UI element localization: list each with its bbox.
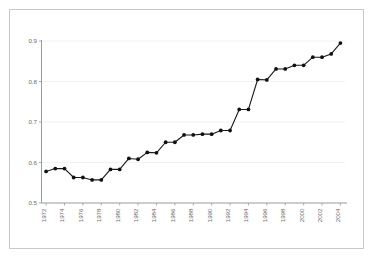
x-tick-label-1980: 1980 bbox=[114, 208, 121, 222]
data-point-1982 bbox=[136, 157, 140, 161]
x-tick-label-1984: 1984 bbox=[150, 208, 157, 222]
y-tick-label-0.5: 0.5 bbox=[28, 199, 37, 206]
y-tick-label-0.8: 0.8 bbox=[28, 78, 37, 85]
x-tick-label-2000: 2000 bbox=[298, 208, 305, 222]
data-point-1987 bbox=[182, 133, 186, 137]
data-point-1984 bbox=[155, 151, 159, 155]
data-point-1986 bbox=[173, 140, 177, 144]
y-tick-label-0.6: 0.6 bbox=[28, 159, 37, 166]
x-tick-label-1998: 1998 bbox=[279, 208, 286, 222]
x-tick-label-1996: 1996 bbox=[261, 208, 268, 222]
data-point-1977 bbox=[90, 178, 94, 182]
x-tick-label-1972: 1972 bbox=[40, 208, 47, 222]
data-point-1996 bbox=[265, 78, 269, 82]
data-point-1993 bbox=[237, 108, 241, 112]
data-point-1980 bbox=[118, 167, 122, 171]
data-point-1991 bbox=[219, 129, 223, 133]
data-point-1978 bbox=[99, 178, 103, 182]
data-point-2000 bbox=[302, 63, 306, 67]
x-tick-label-1982: 1982 bbox=[132, 208, 139, 222]
data-point-1973 bbox=[53, 167, 57, 171]
x-axis-tick-labels: 1972197419761978198019821984198619881990… bbox=[40, 208, 341, 222]
x-tick-label-1986: 1986 bbox=[169, 208, 176, 222]
series-polyline bbox=[46, 43, 340, 180]
data-point-1988 bbox=[191, 133, 195, 137]
data-point-1985 bbox=[164, 140, 168, 144]
x-tick-label-1988: 1988 bbox=[187, 208, 194, 222]
data-point-1992 bbox=[228, 129, 232, 133]
data-series-line bbox=[46, 43, 340, 180]
x-tick-label-1992: 1992 bbox=[224, 208, 231, 222]
data-point-1979 bbox=[109, 167, 113, 171]
data-point-1998 bbox=[283, 67, 287, 71]
data-point-1975 bbox=[72, 176, 76, 180]
y-axis-tick-labels: 0.50.60.70.80.9 bbox=[28, 37, 37, 206]
x-tick-label-1990: 1990 bbox=[206, 208, 213, 222]
data-point-1976 bbox=[81, 176, 85, 180]
x-tick-label-2002: 2002 bbox=[316, 208, 323, 222]
data-point-1999 bbox=[293, 63, 297, 67]
x-tick-label-2004: 2004 bbox=[334, 208, 341, 222]
x-tick-label-1976: 1976 bbox=[77, 208, 84, 222]
data-point-2001 bbox=[311, 55, 315, 59]
data-point-1994 bbox=[247, 108, 251, 112]
data-point-2003 bbox=[329, 52, 333, 56]
data-point-1972 bbox=[44, 170, 48, 174]
data-point-markers bbox=[44, 41, 342, 182]
data-point-1981 bbox=[127, 157, 131, 161]
chart-figure: 0.50.60.70.80.9 197219741976197819801982… bbox=[0, 0, 375, 266]
x-tick-label-1974: 1974 bbox=[58, 208, 65, 222]
data-point-1997 bbox=[274, 67, 278, 71]
data-point-2004 bbox=[339, 41, 343, 45]
x-tick-label-1978: 1978 bbox=[95, 208, 102, 222]
line-chart: 0.50.60.70.80.9 197219741976197819801982… bbox=[0, 0, 375, 266]
gridlines bbox=[42, 41, 346, 163]
x-tick-label-1994: 1994 bbox=[242, 208, 249, 222]
data-point-1974 bbox=[63, 167, 67, 171]
y-tick-label-0.9: 0.9 bbox=[28, 37, 37, 44]
data-point-1990 bbox=[210, 132, 214, 136]
data-point-1995 bbox=[256, 78, 260, 82]
y-tick-label-0.7: 0.7 bbox=[28, 118, 37, 125]
data-point-1983 bbox=[145, 150, 149, 154]
data-point-2002 bbox=[320, 55, 324, 59]
data-point-1989 bbox=[201, 132, 205, 136]
